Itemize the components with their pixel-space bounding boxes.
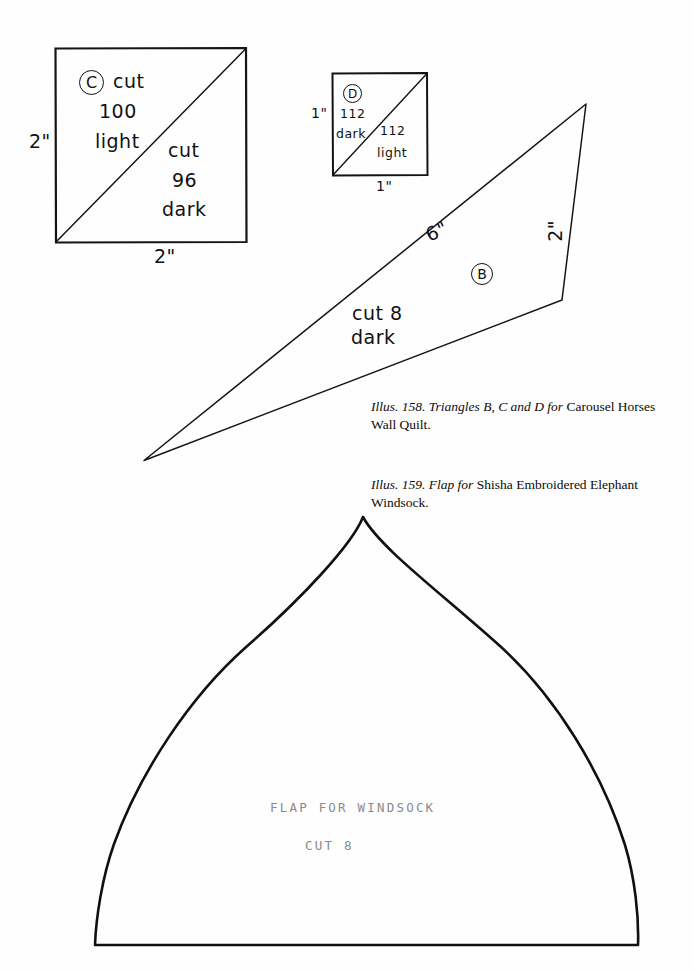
square-c-left-dimension: 2"	[29, 131, 51, 153]
square-d-lower-fabric: light	[377, 146, 407, 160]
printed-page: C cut 100 light cut 96 dark 2" 2" D 112 …	[0, 0, 694, 971]
square-c-lower-fabric: dark	[162, 199, 207, 221]
flap-title-label: FLAP FOR WINDSOCK	[270, 800, 435, 815]
square-d-upper-count: 112	[340, 107, 365, 121]
caption-illus-159: Illus. 159. Flap for Shisha Embroidered …	[371, 476, 681, 512]
triangle-b-hypotenuse-dimension: 6"	[422, 217, 451, 246]
square-d-badge: D	[343, 84, 362, 103]
square-c-upper-count: 100	[99, 101, 137, 123]
square-d-upper-fabric: dark	[336, 127, 366, 141]
caption-158-italic: Illus. 158. Triangles B, C and D for	[371, 399, 563, 414]
square-d-bottom-dimension: 1"	[376, 178, 392, 194]
triangle-b-badge: B	[471, 263, 493, 285]
triangle-b-right-dimension: 2"	[545, 220, 567, 242]
square-c-upper-fabric: light	[95, 131, 140, 153]
square-d-left-dimension: 1"	[311, 105, 327, 121]
square-c-badge: C	[79, 70, 104, 95]
triangle-b-cut-line: cut 8	[352, 303, 403, 325]
caption-159-italic: Illus. 159. Flap for	[371, 477, 473, 492]
triangle-b-badge-letter: B	[477, 266, 487, 282]
square-c-badge-letter: C	[86, 73, 97, 92]
windsock-flap-outline	[95, 517, 638, 945]
square-c-bottom-dimension: 2"	[154, 246, 176, 268]
square-c-lower-cut-word: cut	[168, 140, 199, 162]
square-d-badge-letter: D	[348, 87, 357, 101]
square-d-lower-count: 112	[380, 124, 405, 138]
caption-illus-158: Illus. 158. Triangles B, C and D for Car…	[371, 398, 681, 434]
square-c-lower-count: 96	[172, 170, 197, 192]
triangle-b-fabric-line: dark	[351, 327, 396, 349]
flap-cut-label: CUT 8	[305, 838, 354, 853]
square-c-upper-cut-word: cut	[113, 71, 144, 93]
